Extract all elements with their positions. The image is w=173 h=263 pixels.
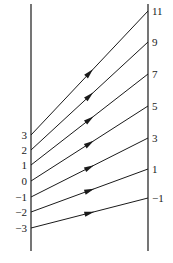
left-axis-label: 1 [22,159,28,171]
left-axis-labels: 3210−1−2−3 [15,129,27,234]
right-axis-label: 1 [152,163,158,175]
left-axis-label: −3 [15,222,27,234]
mapping-lines [31,11,148,228]
left-axis-label: −2 [15,206,27,218]
right-axis-label: 9 [152,36,158,48]
right-axis-label: −1 [152,192,164,204]
right-axis-label: 3 [152,132,158,144]
left-axis-label: −1 [15,191,27,203]
right-axis-label: 7 [152,68,158,80]
mapping-diagram: 3210−1−2−3 1197531−1 [0,0,173,263]
left-axis-label: 0 [22,175,28,187]
left-axis-label: 2 [22,144,28,156]
right-axis-label: 5 [152,100,158,112]
right-axis-label: 11 [152,5,163,17]
arrow-icon [84,186,95,194]
right-axis-labels: 1197531−1 [152,5,164,204]
arrow-icon [84,163,95,172]
left-axis-label: 3 [22,129,28,141]
arrow-icon [84,209,95,217]
arrow-icon [84,139,95,149]
